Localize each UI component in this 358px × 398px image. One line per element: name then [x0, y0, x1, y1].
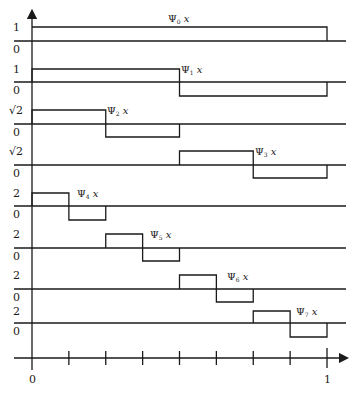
- wavelet-rows: 10Ψ0 x10Ψ1 x√20Ψ2 x√20Ψ3 x20Ψ4 x20Ψ5 x20…: [9, 13, 346, 338]
- wavelet-row-psi-6: 20Ψ6 x: [13, 269, 346, 304]
- y-top-label: √2: [9, 104, 23, 117]
- wavelet-row-psi-4: 20Ψ4 x: [13, 187, 346, 221]
- y-top-label: 1: [13, 21, 20, 34]
- function-label: Ψ4 x: [77, 188, 99, 200]
- wavelet-row-psi-2: √20Ψ2 x: [9, 104, 346, 139]
- function-label: Ψ7 x: [296, 306, 318, 318]
- y-top-label: 1: [13, 63, 20, 76]
- function-label: Ψ1 x: [181, 64, 203, 76]
- y-zero-label: 0: [13, 167, 20, 180]
- haar-wavelet-diagram: 0 1 10Ψ0 x10Ψ1 x√20Ψ2 x√20Ψ3 x20Ψ4 x20Ψ5…: [0, 0, 358, 398]
- wavelet-waveform: [32, 27, 327, 41]
- y-top-label: √2: [9, 145, 23, 158]
- y-zero-label: 0: [13, 126, 20, 139]
- wavelet-row-psi-7: 20Ψ7 x: [13, 305, 346, 338]
- y-top-label: 2: [13, 187, 20, 200]
- wavelet-row-psi-3: √20Ψ3 x: [9, 145, 346, 180]
- wavelet-row-psi-0: 10Ψ0 x: [13, 13, 346, 56]
- function-label: Ψ6 x: [227, 271, 249, 283]
- function-label: Ψ2 x: [107, 105, 129, 117]
- y-zero-label: 0: [13, 325, 20, 338]
- x-axis-max-label: 1: [324, 373, 331, 386]
- y-top-label: 2: [13, 305, 20, 318]
- function-label: Ψ0 x: [168, 13, 190, 25]
- function-label: Ψ3 x: [255, 146, 277, 158]
- function-label: Ψ5 x: [150, 229, 172, 241]
- y-zero-label: 0: [13, 43, 20, 56]
- wavelet-row-psi-5: 20Ψ5 x: [13, 228, 346, 263]
- y-zero-label: 0: [13, 291, 20, 304]
- y-zero-label: 0: [13, 84, 20, 97]
- wavelet-row-psi-1: 10Ψ1 x: [13, 63, 346, 97]
- y-top-label: 2: [13, 269, 20, 282]
- y-zero-label: 0: [13, 250, 20, 263]
- x-axis-min-label: 0: [29, 373, 36, 386]
- y-top-label: 2: [13, 228, 20, 241]
- y-zero-label: 0: [13, 208, 20, 221]
